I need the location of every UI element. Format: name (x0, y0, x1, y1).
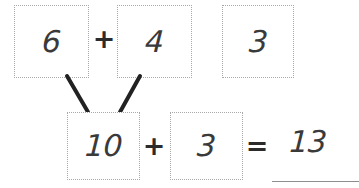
plus-operator-top: + (94, 26, 114, 50)
left-branch-line (67, 76, 88, 112)
total-value: 13 (287, 126, 329, 158)
right-branch-line (120, 76, 140, 112)
answer-rule-line (272, 181, 359, 182)
top-box-first-addend[interactable]: 6 (14, 5, 89, 78)
top-box-third-addend-value: 3 (248, 27, 268, 57)
bottom-box-ten-value: 10 (84, 131, 123, 161)
plus-operator-bottom: + (144, 133, 164, 157)
bottom-box-remaining[interactable]: 3 (170, 112, 243, 180)
bottom-box-ten[interactable]: 10 (67, 112, 140, 180)
top-box-third-addend[interactable]: 3 (222, 5, 294, 78)
top-box-second-addend-value: 4 (144, 27, 164, 57)
worksheet-canvas: 6 + 4 3 10 + 3 = 13 (0, 0, 359, 188)
top-box-first-addend-value: 6 (41, 27, 61, 57)
equals-operator: = (247, 133, 267, 157)
top-box-second-addend[interactable]: 4 (117, 5, 192, 78)
bottom-box-remaining-value: 3 (196, 131, 216, 161)
